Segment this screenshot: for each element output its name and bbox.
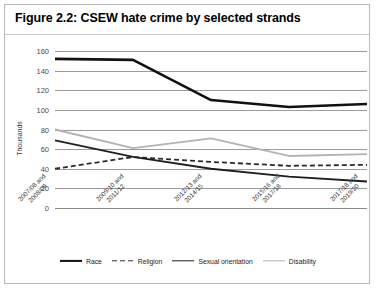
page-title: Figure 2.2: CSEW hate crime by selected … [15, 11, 301, 25]
legend-label: Religion [138, 258, 163, 265]
series-line-race [55, 59, 367, 107]
legend-item-race[interactable]: Race [60, 257, 102, 265]
chart-legend: RaceReligionSexual orientationDisability [5, 257, 371, 265]
legend-label: Disability [289, 258, 316, 265]
legend-item-religion[interactable]: Religion [112, 257, 163, 265]
legend-item-sexual-orientation[interactable]: Sexual orientation [172, 257, 252, 265]
legend-swatch-icon [172, 257, 194, 265]
legend-swatch-icon [263, 257, 285, 265]
chart-series-layer [5, 35, 371, 284]
series-line-disability [55, 130, 367, 156]
legend-label: Sexual orientation [198, 258, 252, 265]
legend-label: Race [86, 258, 102, 265]
legend-swatch-icon [60, 257, 82, 265]
legend-item-disability[interactable]: Disability [263, 257, 316, 265]
figure-container: Figure 2.2: CSEW hate crime by selected … [4, 4, 370, 284]
chart-plot-area: Thousands 160140120100806040200 2007/08 … [5, 35, 371, 284]
legend-swatch-icon [112, 257, 134, 265]
figure-title-bar: Figure 2.2: CSEW hate crime by selected … [5, 5, 369, 35]
